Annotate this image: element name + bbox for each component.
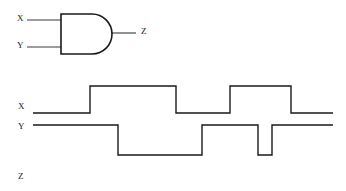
waveform-x — [33, 86, 333, 113]
waveform-label-z: Z — [18, 172, 24, 181]
waveform-label-y: Y — [18, 122, 25, 131]
logic-timing-diagram: X Y Z X Y Z — [0, 0, 346, 191]
waveform-label-x: X — [18, 102, 25, 111]
waveform-y — [33, 125, 333, 155]
timing-waveform-area — [0, 0, 346, 191]
